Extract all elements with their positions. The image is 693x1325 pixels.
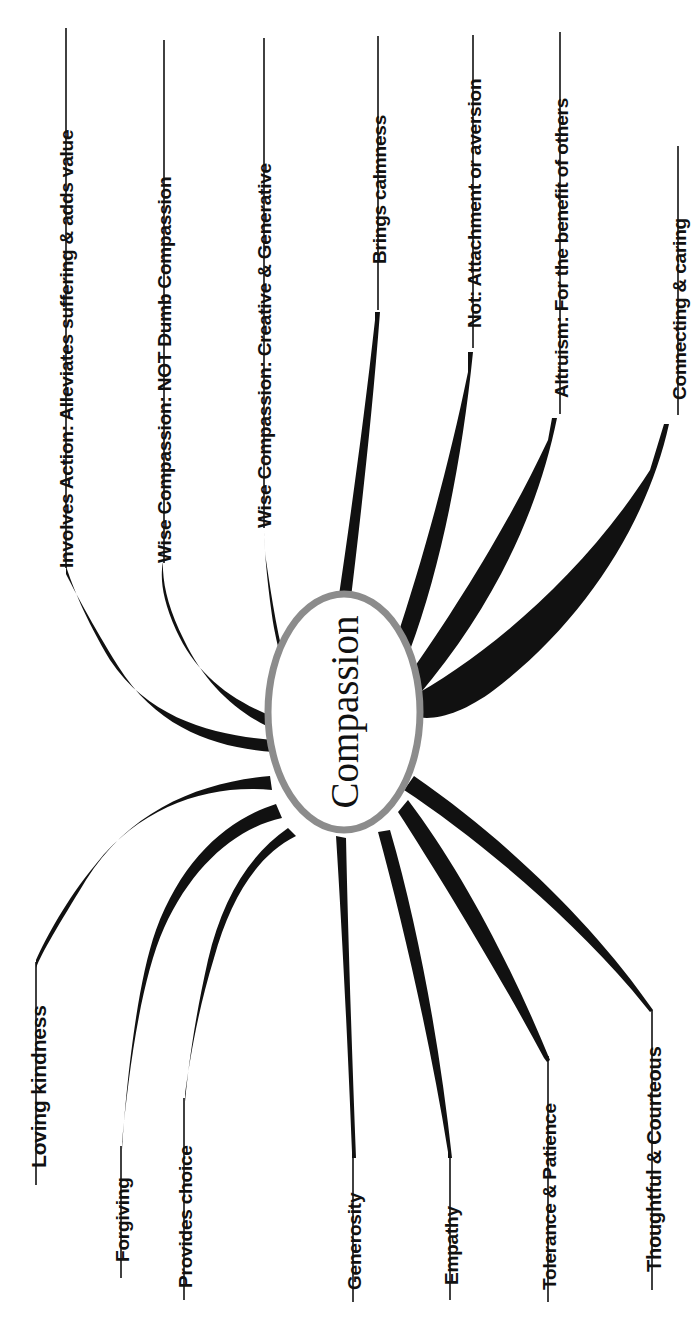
node-label-altruism-benefit-others[interactable]: Altruism: For the benefit of others bbox=[552, 98, 571, 398]
node-label-provides-choice[interactable]: Provides choice bbox=[176, 1145, 195, 1288]
node-label-thoughtful-courteous[interactable]: Thoughtful & Courteous bbox=[644, 1046, 664, 1272]
branch-provides-choice bbox=[185, 828, 296, 1102]
mindmap-canvas: Compassion Involves Action: Alleviates s… bbox=[0, 0, 693, 1325]
node-label-connecting-caring[interactable]: Connecting & caring bbox=[670, 218, 689, 400]
node-label-involves-action[interactable]: Involves Action: Alleviates suffering & … bbox=[57, 130, 76, 568]
branch-generosity bbox=[336, 836, 356, 1158]
branch-thoughtful-courteous bbox=[404, 776, 653, 1012]
center-node-label: Compassion bbox=[323, 616, 367, 809]
branch-wise-not-dumb bbox=[162, 562, 280, 732]
node-label-wise-compassion-not-dumb[interactable]: Wise Compassion: NOT Dumb Compassion bbox=[155, 177, 174, 563]
node-label-brings-calmness[interactable]: Brings calmness bbox=[370, 115, 389, 264]
node-label-empathy[interactable]: Empathy bbox=[442, 1206, 461, 1285]
node-label-forgiving[interactable]: Forgiving bbox=[113, 1177, 132, 1262]
node-label-loving-kindness[interactable]: Loving kindness bbox=[28, 1005, 49, 1168]
node-label-not-attachment-aversion[interactable]: Not: Attachment or aversion bbox=[465, 79, 484, 328]
node-label-wise-compassion-creative[interactable]: Wise Compassion: Creative & Generative bbox=[255, 163, 274, 528]
branch-brings-calmness bbox=[338, 312, 380, 606]
mindmap-graphics: Compassion bbox=[0, 0, 693, 1325]
node-label-generosity[interactable]: Generosity bbox=[345, 1193, 364, 1290]
branch-involves-action bbox=[66, 566, 274, 752]
node-label-tolerance-patience[interactable]: Tolerance & Patience bbox=[540, 1103, 559, 1290]
